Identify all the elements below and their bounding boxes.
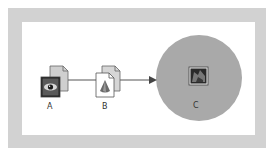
node-label-b: B: [102, 102, 108, 111]
node-label-c: C: [193, 101, 199, 110]
arrowhead-icon: [149, 76, 157, 84]
image-thumbnail-icon: [189, 67, 208, 85]
bell-document-icon: [96, 66, 120, 97]
node-label-a: A: [47, 102, 52, 111]
diagram-graphics: [0, 0, 273, 152]
eye-document-icon: [41, 66, 68, 97]
